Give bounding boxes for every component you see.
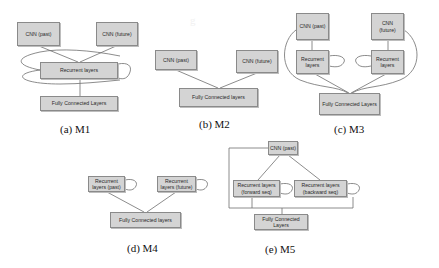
m5-fc-node: Fully Connected Layers — [254, 214, 308, 230]
m1-recurrent-node: Recurrent layers — [40, 62, 118, 79]
m3-cnn-past-node: CNN (past) — [296, 13, 329, 40]
m5-caption: (e) M5 — [265, 243, 295, 255]
m1-cnn-future-node: CNN (future) — [96, 22, 138, 46]
m4-recurrent-past-node: Recurrent layers (past) — [88, 176, 125, 192]
m1-fc-node: Fully Connected Layers — [40, 96, 118, 111]
m3-fc-node: Fully Connected Layers — [319, 93, 380, 115]
m2-caption: (b) M2 — [199, 118, 230, 130]
m1-cnn-past-node: CNN (past) — [17, 22, 60, 46]
m2-cnn-past-node: CNN (past) — [155, 50, 197, 70]
m4-fc-node: Fully Connected layers — [110, 212, 181, 228]
m3-cnn-future-node: CNN (future) — [371, 13, 404, 40]
m4-recurrent-future-node: Recurrent layers (future) — [157, 176, 196, 192]
m3-recurrent-left-node: Recurrent layers — [296, 50, 329, 74]
m3-caption: (c) M3 — [334, 123, 364, 135]
m5-cnn-past-node: CNN (past) — [268, 141, 298, 155]
m5-recurrent-backward-node: Recurrent layers (backward seq) — [294, 180, 347, 197]
m2-cnn-future-node: CNN (future) — [236, 50, 278, 73]
m2-fc-node: Fully Connected layers — [179, 88, 258, 107]
m4-caption: (d) M4 — [127, 242, 158, 254]
m1-caption: (a) M1 — [60, 123, 90, 135]
m3-recurrent-right-node: Recurrent layers — [371, 50, 404, 74]
m5-recurrent-forward-node: Recurrent layers (forward seq) — [233, 180, 280, 197]
